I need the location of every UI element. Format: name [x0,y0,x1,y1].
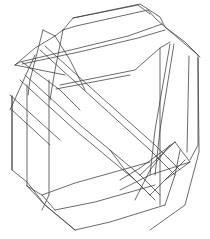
top-prism-faces [15,5,200,89]
line-segment [27,186,55,210]
right-vertical-edges [150,44,198,205]
line-segment [15,65,65,75]
line-segment [10,55,35,110]
line-segment [190,58,198,160]
line-segment [27,186,75,230]
line-segment [55,36,85,90]
line-segment [10,95,60,140]
outer-silhouette [12,4,199,230]
line-segment [75,205,165,230]
line-segment [55,185,155,210]
upper-left-star [10,30,85,110]
line-segment [12,96,75,230]
line-segment [187,56,189,152]
line-segment [20,80,155,200]
line-segment [25,75,160,195]
wireframe-figure [0,0,210,239]
line-segment [150,160,185,195]
bottom-prism-faces [27,162,165,230]
line-segment [15,24,162,65]
line-segment [12,110,50,145]
line-segment [22,30,165,64]
line-segment [56,75,130,89]
line-segment [43,30,63,36]
line-segment [40,50,175,175]
line-segment [63,10,200,57]
line-segment [155,44,174,175]
